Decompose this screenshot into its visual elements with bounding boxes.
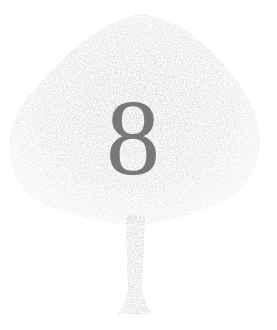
- numeral-label: 8: [0, 84, 266, 192]
- tree-illustration: 8: [0, 0, 277, 330]
- tree-trunk: [118, 215, 152, 314]
